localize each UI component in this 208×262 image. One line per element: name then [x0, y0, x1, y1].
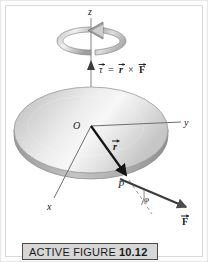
disk	[14, 87, 168, 179]
z-axis-label: z	[87, 6, 92, 17]
rotation-arrow-left-band	[57, 27, 91, 55]
force-vector: F	[120, 179, 189, 227]
torque-equation: τ = r × F	[99, 63, 147, 75]
force-vector-arrow	[120, 179, 186, 207]
angle-phi: φ	[142, 190, 150, 205]
equation-tau-arrowhead	[103, 63, 106, 66]
r-vector-label: r	[113, 141, 117, 152]
figure-root: z τ = r × F	[0, 0, 208, 262]
figure-caption: ACTIVE FIGURE 10.12	[22, 243, 158, 260]
torque-vector-head	[87, 60, 95, 70]
equation-equals: =	[108, 64, 114, 75]
equation-tau: τ	[99, 64, 103, 75]
F-vector-label: F	[182, 216, 188, 227]
equation-r: r	[119, 64, 123, 75]
equation-r-arrowhead	[123, 63, 126, 66]
x-axis-label: x	[46, 201, 52, 212]
y-axis-label: y	[183, 117, 189, 128]
caption-number: 10.12	[119, 246, 148, 258]
torque-diagram-illustration: z τ = r × F	[0, 0, 208, 262]
caption-prefix: ACTIVE FIGURE	[29, 246, 116, 258]
disk-top-face	[14, 87, 168, 173]
angle-label: φ	[144, 194, 149, 204]
origin-label: O	[73, 120, 80, 131]
equation-cross: ×	[128, 64, 134, 75]
